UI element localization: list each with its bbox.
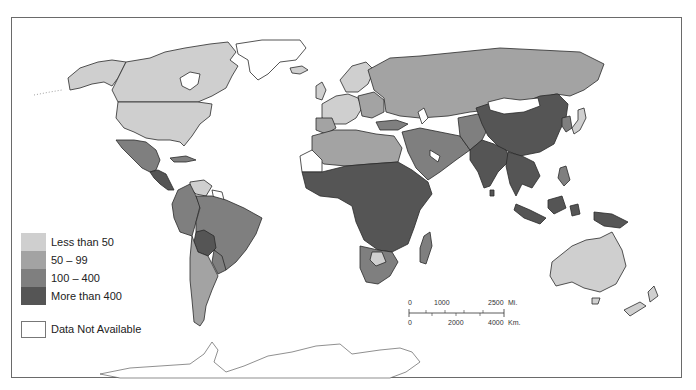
scale-km-mid: 2000 (448, 319, 464, 326)
region-iceland (290, 66, 308, 74)
region-madagascar (420, 232, 432, 264)
region-australia (550, 232, 626, 292)
scale-km-unit: Km. (508, 319, 520, 326)
legend-label: 100 – 400 (51, 269, 100, 287)
region-united-states (116, 102, 212, 146)
region-southeast-asia (506, 152, 540, 196)
region-sri-lanka (490, 190, 494, 196)
legend-swatch (21, 251, 46, 269)
region-korea (562, 116, 572, 132)
aleutian-islands (34, 90, 62, 95)
legend-item-50-99: 50 – 99 (21, 251, 122, 269)
scale-mi-mid: 1000 (434, 299, 450, 306)
region-tasmania (592, 298, 600, 304)
scale-bar: 0 1000 2500 Mi. 0 2000 4000 Km. (408, 299, 518, 329)
legend-swatch (21, 287, 46, 305)
legend-label: More than 400 (51, 287, 122, 305)
region-eastern-europe (358, 92, 384, 118)
region-new-zealand (624, 286, 658, 316)
legend-swatch-empty (21, 321, 46, 338)
legend-item-more-than-400: More than 400 (21, 287, 122, 305)
region-new-guinea (594, 212, 628, 228)
region-philippines (558, 166, 570, 186)
legend-swatch (21, 269, 46, 287)
legend-label: 50 – 99 (51, 251, 88, 269)
region-scandinavia (340, 62, 374, 92)
legend-item-less-than-50: Less than 50 (21, 233, 122, 251)
legend-item-data-not-available: Data Not Available (21, 320, 141, 338)
legend-swatch (21, 233, 46, 251)
scale-mi-start: 0 (408, 299, 412, 306)
region-cuba (170, 156, 196, 162)
scale-ruler (408, 309, 508, 317)
scale-mi-unit: Mi. (508, 299, 517, 306)
region-antarctica (100, 342, 420, 378)
region-canada (112, 42, 238, 102)
legend: Less than 50 50 – 99 100 – 400 More than… (21, 233, 122, 305)
region-central-america (150, 170, 174, 190)
region-japan (572, 108, 586, 134)
region-turkey (376, 120, 408, 130)
region-north-africa (312, 130, 402, 166)
legend-label: Data Not Available (51, 320, 141, 338)
region-greenland (236, 40, 306, 80)
region-uk (316, 82, 326, 100)
scale-mi-end: 2500 (488, 299, 504, 306)
scale-km-start: 0 (408, 319, 412, 326)
legend-label: Less than 50 (51, 233, 114, 251)
region-sub-saharan-africa (302, 162, 432, 252)
region-mexico (116, 140, 160, 172)
region-indonesia (514, 196, 580, 224)
scale-km-end: 4000 (488, 319, 504, 326)
legend-item-100-400: 100 – 400 (21, 269, 122, 287)
